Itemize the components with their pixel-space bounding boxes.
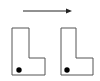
- dot-marker: [64, 67, 69, 72]
- direction-arrow: [23, 9, 72, 14]
- l-shape-left: [12, 28, 45, 75]
- diagram-canvas: [0, 0, 100, 81]
- l-shape-right: [61, 28, 93, 75]
- arrow-head-icon: [66, 9, 72, 14]
- l-shape-outline: [12, 28, 45, 75]
- dot-marker: [16, 67, 21, 72]
